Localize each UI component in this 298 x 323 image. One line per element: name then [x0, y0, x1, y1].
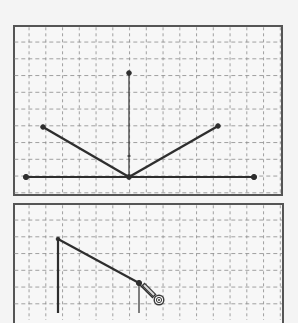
diagonal-segment[interactable] — [58, 239, 139, 283]
right-arm-point[interactable] — [216, 124, 221, 129]
vertex-point[interactable] — [127, 175, 132, 180]
baseline-left-point[interactable] — [23, 174, 28, 179]
junction-point[interactable] — [136, 280, 141, 285]
pencil-icon — [140, 284, 155, 298]
target-cursor-icon — [154, 295, 164, 305]
bottom-grid — [14, 205, 282, 320]
top-grid — [14, 27, 281, 195]
baseline-right-point[interactable] — [251, 174, 256, 179]
bottom-figure — [56, 237, 164, 313]
right-arm-segment[interactable] — [129, 126, 218, 177]
left-arm-point[interactable] — [41, 125, 46, 130]
left-arm-segment[interactable] — [43, 127, 129, 177]
vertical-top-point[interactable] — [127, 71, 132, 76]
left-top-point[interactable] — [56, 237, 60, 241]
top-figure — [23, 71, 256, 180]
